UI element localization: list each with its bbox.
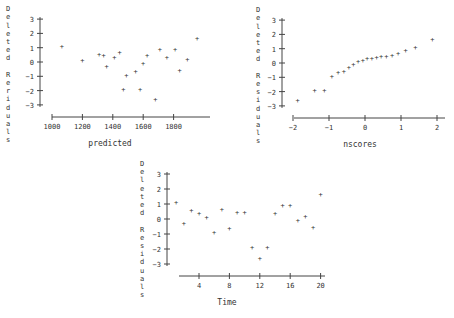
data-point: + bbox=[258, 255, 262, 263]
data-point: + bbox=[174, 199, 178, 207]
y-tick-label: −3 bbox=[153, 261, 161, 269]
y-axis-label-char: e bbox=[140, 185, 144, 193]
y-axis-label-char: s bbox=[140, 291, 144, 299]
y-tick-label: 3 bbox=[157, 171, 161, 179]
y-axis-label-char: i bbox=[140, 250, 144, 258]
y-tick-label: 0 bbox=[157, 216, 161, 224]
data-point: + bbox=[227, 225, 231, 233]
data-point: + bbox=[303, 213, 307, 221]
data-point: + bbox=[220, 206, 224, 214]
data-point: + bbox=[212, 229, 216, 237]
y-axis-label-char: u bbox=[140, 267, 144, 275]
y-tick-label: 2 bbox=[157, 186, 161, 194]
y-axis-label-char: d bbox=[140, 209, 144, 217]
data-point: + bbox=[197, 210, 201, 218]
y-axis-label-char: D bbox=[140, 160, 144, 168]
data-point: + bbox=[250, 244, 254, 252]
x-tick-label: 16 bbox=[286, 282, 294, 290]
y-axis-label-char: s bbox=[140, 242, 144, 250]
data-point: + bbox=[189, 207, 193, 215]
y-axis-label-char: a bbox=[140, 275, 144, 283]
data-point: + bbox=[273, 210, 277, 218]
y-tick-label: −1 bbox=[153, 231, 161, 239]
x-tick-label: 4 bbox=[197, 282, 201, 290]
data-point: + bbox=[296, 217, 300, 225]
data-point: + bbox=[265, 244, 269, 252]
y-axis-label-char: l bbox=[140, 283, 144, 291]
y-axis-label-char: d bbox=[140, 258, 144, 266]
y-axis-label-char: l bbox=[140, 176, 144, 184]
data-point: + bbox=[235, 209, 239, 217]
y-axis-label-char: R bbox=[140, 226, 145, 234]
data-point: + bbox=[288, 202, 292, 210]
data-point: + bbox=[318, 191, 322, 199]
y-tick-label: 1 bbox=[157, 201, 161, 209]
y-axis-label-char: e bbox=[140, 168, 144, 176]
y-tick-label: −2 bbox=[153, 246, 161, 254]
x-axis-label: Time bbox=[217, 298, 236, 307]
y-axis-label-char: e bbox=[140, 201, 144, 209]
data-point: + bbox=[280, 202, 284, 210]
x-tick-label: 20 bbox=[316, 282, 324, 290]
y-axis-label-char: t bbox=[140, 193, 144, 201]
data-point: + bbox=[311, 224, 315, 232]
data-point: + bbox=[242, 209, 246, 217]
x-tick-label: 12 bbox=[256, 282, 264, 290]
x-tick-label: 8 bbox=[227, 282, 231, 290]
y-axis-label-char: e bbox=[140, 234, 144, 242]
data-point: + bbox=[204, 214, 208, 222]
data-point: + bbox=[182, 220, 186, 228]
